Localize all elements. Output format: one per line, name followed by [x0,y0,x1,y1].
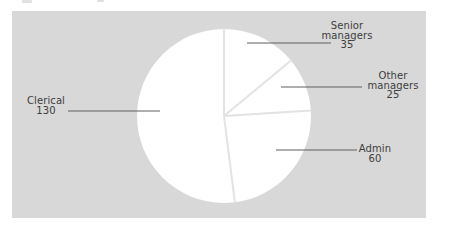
label-other-managers: Other managers 25 [368,71,419,100]
pie-chart [0,0,459,233]
label-senior-managers: Senior managers 35 [322,21,373,50]
label-clerical: Clerical 130 [27,96,65,115]
pie-chart-figure: Senior managers 35 Other managers 25 Adm… [0,0,459,233]
label-admin: Admin 60 [359,144,391,163]
